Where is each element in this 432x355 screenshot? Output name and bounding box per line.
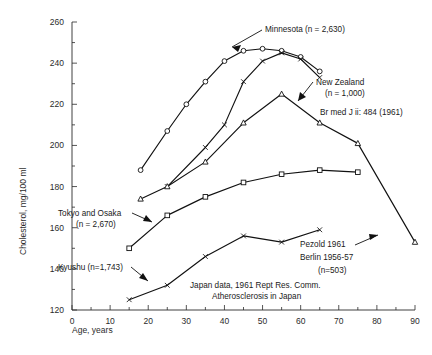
annotation-minnesota: Minnesota (n = 2,630): [265, 25, 345, 34]
data-point-marker: [127, 246, 132, 251]
data-point-marker: [222, 122, 227, 127]
data-point-marker: [165, 213, 170, 218]
x-tick-label: 60: [296, 316, 306, 326]
series-minnesota: [138, 46, 322, 172]
data-point-marker: [184, 102, 189, 107]
data-point-marker: [203, 145, 208, 150]
data-point-marker: [356, 170, 361, 175]
series-kyushu: [127, 227, 322, 302]
annotation-new-zealand-line2: (n = 1,000): [325, 89, 365, 98]
annotation-tokyo-osaka-line2: (n = 2,670): [76, 220, 116, 229]
x-axis-tick-labels: 0102030405060708090: [70, 316, 420, 326]
data-point-marker: [165, 283, 170, 288]
data-point-marker: [241, 48, 246, 53]
data-point-marker: [260, 59, 265, 64]
y-tick-label: 180: [50, 182, 64, 192]
y-tick-label: 260: [50, 17, 64, 27]
x-axis-title: Age, years: [72, 325, 113, 335]
annotation-japan-source-line2: Atherosclerosis in Japan: [212, 292, 302, 301]
annotation-japan-source-line1: Japan data, 1961 Rept Res. Comm.: [190, 281, 321, 290]
annotation-new-zealand-line1: New Zealand: [316, 78, 365, 87]
annotation-citation-brmedj: Br med J ii: 484 (1961): [320, 108, 403, 117]
data-point-marker: [279, 172, 284, 177]
data-point-marker: [241, 180, 246, 185]
y-tick-label: 200: [50, 140, 64, 150]
data-point-marker: [222, 59, 227, 64]
y-tick-label: 160: [50, 223, 64, 233]
x-tick-label: 80: [372, 316, 382, 326]
annotation-pezold-line1: Pezold 1961: [300, 240, 346, 249]
y-tick-label: 220: [50, 99, 64, 109]
data-point-marker: [165, 129, 170, 134]
annotation-pezold-line3: (n=503): [318, 266, 347, 275]
chart-canvas: 120140160180200220240260 010203040506070…: [0, 0, 432, 355]
data-point-marker: [203, 79, 208, 84]
annotation-pezold-line2: Berlin 1956-57: [300, 253, 354, 262]
data-point-marker: [203, 254, 208, 259]
annotation-kyushu: Kyushu (n=1,743): [58, 263, 123, 272]
x-tick-label: 40: [220, 316, 230, 326]
x-tick-label: 70: [334, 316, 344, 326]
data-point-marker: [241, 79, 246, 84]
data-point-marker: [203, 195, 208, 200]
data-point-marker: [317, 69, 322, 74]
data-point-marker: [260, 46, 265, 51]
annotation-tokyo-osaka-line1: Tokyo and Osaka: [58, 209, 122, 218]
x-tick-label: 90: [410, 316, 420, 326]
data-point-marker: [317, 168, 322, 173]
data-point-marker: [355, 140, 360, 145]
cholesterol-age-chart: 120140160180200220240260 010203040506070…: [0, 0, 432, 355]
y-axis-title: Cholesterol, mg/100 ml: [18, 167, 28, 255]
data-point-marker: [127, 297, 132, 302]
y-tick-label: 240: [50, 58, 64, 68]
series-tokyo-and-osaka: [127, 168, 360, 251]
y-tick-label: 120: [50, 305, 64, 315]
x-tick-label: 50: [258, 316, 268, 326]
series-line: [141, 49, 320, 170]
x-tick-label: 30: [182, 316, 192, 326]
data-point-marker: [138, 168, 143, 173]
x-tick-label: 20: [143, 316, 153, 326]
data-series-layer: [127, 46, 418, 302]
data-point-marker: [279, 91, 284, 96]
